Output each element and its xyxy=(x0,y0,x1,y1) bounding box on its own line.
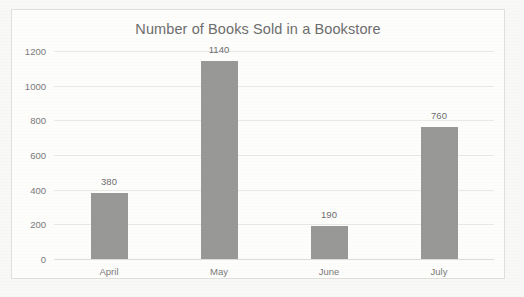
x-axis-tick-label: July xyxy=(431,266,448,277)
y-axis-tick-label: 1000 xyxy=(25,80,46,91)
y-axis-tick-label: 400 xyxy=(30,184,46,195)
bar-slot: 760July xyxy=(384,51,494,259)
bar-slot: 190June xyxy=(274,51,384,259)
chart-screenshot: Number of Books Sold in a Bookstore 0200… xyxy=(0,0,524,297)
y-axis-tick-label: 200 xyxy=(30,219,46,230)
x-axis-tick-label: April xyxy=(99,266,118,277)
bar-slot: 1140May xyxy=(164,51,274,259)
bar-slot: 380April xyxy=(54,51,164,259)
bars-group: 380April1140May190June760July xyxy=(54,51,494,259)
bar-value-label: 760 xyxy=(431,110,447,121)
x-axis-tick-label: May xyxy=(210,266,228,277)
y-axis-tick-label: 0 xyxy=(41,254,46,265)
plot-area: 020040060080010001200 380April1140May190… xyxy=(54,51,494,259)
y-axis-tick-label: 600 xyxy=(30,150,46,161)
chart-frame: Number of Books Sold in a Bookstore 0200… xyxy=(11,9,505,279)
gridline: 0 xyxy=(54,259,494,260)
bar-value-label: 380 xyxy=(101,176,117,187)
x-axis-tick-label: June xyxy=(319,266,340,277)
bar-value-label: 190 xyxy=(321,209,337,220)
y-axis-tick-label: 1200 xyxy=(25,46,46,57)
bar-april[interactable]: 380 xyxy=(91,193,128,259)
bar-july[interactable]: 760 xyxy=(421,127,458,259)
bar-value-label: 1140 xyxy=(209,44,229,55)
bar-may[interactable]: 1140 xyxy=(201,61,238,259)
bar-june[interactable]: 190 xyxy=(311,226,348,259)
y-axis-tick-label: 800 xyxy=(30,115,46,126)
chart-title: Number of Books Sold in a Bookstore xyxy=(12,21,504,37)
